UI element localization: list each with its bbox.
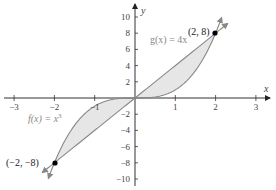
y-tick-label: 2 — [126, 77, 131, 87]
f-label-main: f(x) = x — [28, 113, 59, 125]
y-tick-label: 8 — [126, 28, 131, 38]
x-tick-label: 1 — [173, 102, 178, 112]
y-tick-label: −8 — [120, 158, 130, 168]
x-tick-label: 2 — [213, 102, 218, 112]
x-tick-label: 3 — [254, 102, 259, 112]
x-tick-label: −3 — [9, 102, 19, 112]
point-label-bottom: (−2, −8) — [6, 157, 39, 169]
y-tick-label: −10 — [116, 174, 131, 184]
axes — [4, 4, 270, 186]
y-tick-label: −4 — [120, 125, 130, 135]
intersection-point-top — [212, 30, 217, 35]
y-tick-label: 10 — [121, 12, 131, 22]
point-label-top: (2, 8) — [188, 26, 210, 38]
x-axis-label: x — [263, 83, 269, 94]
f-label-exponent: 3 — [58, 112, 62, 120]
y-tick-label: −2 — [120, 109, 130, 119]
function-graph: −3−2−1123−10−8−6−4−2246810 x y g(x) = 4x… — [0, 0, 276, 190]
y-tick-label: −6 — [120, 142, 130, 152]
x-tick-label: −1 — [90, 102, 100, 112]
y-tick-label: 4 — [126, 61, 131, 71]
y-axis-label: y — [140, 5, 146, 16]
intersection-point-bottom — [52, 160, 57, 165]
y-tick-label: 6 — [126, 44, 131, 54]
f-function-label: f(x) = x3 — [28, 112, 62, 125]
g-function-label: g(x) = 4x — [150, 34, 187, 46]
x-tick-label: −2 — [50, 102, 60, 112]
